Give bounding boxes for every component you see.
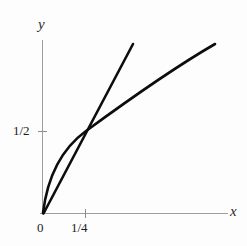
straight-line [44,44,134,214]
x-axis-label: x [230,204,237,219]
x-tick-label-quarter: 1/4 [71,221,88,234]
origin-tick-label: 0 [37,221,44,234]
plot-canvas [0,0,247,246]
math-figure-plot: y x 0 1/4 1/2 [0,0,247,246]
y-axis-label: y [38,17,45,32]
y-tick-label-half: 1/2 [13,124,30,137]
square-root-curve [43,44,215,213]
